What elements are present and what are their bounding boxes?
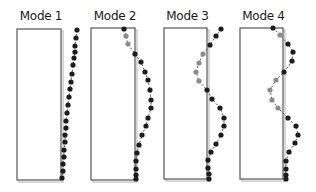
- mode-point: [63, 125, 68, 130]
- mode-point: [132, 51, 137, 56]
- mode-point-gray: [277, 32, 282, 37]
- mode-shapes-canvas: [0, 0, 316, 192]
- mode-point-gray: [267, 87, 272, 92]
- mode-point-gray: [196, 78, 201, 83]
- mode-point-gray: [200, 51, 205, 56]
- structure-outline: [17, 29, 61, 180]
- mode-point: [142, 69, 147, 74]
- mode-point: [71, 55, 76, 60]
- mode-point-gray: [193, 69, 198, 74]
- mode-point: [61, 154, 66, 159]
- mode-point: [60, 161, 65, 166]
- mode-point: [285, 115, 290, 120]
- mode-point: [133, 166, 138, 171]
- mode-point: [143, 123, 148, 128]
- mode-point: [60, 168, 65, 173]
- mode-point: [295, 132, 300, 137]
- mode-shapes-figure: Mode 1 Mode 2 Mode 3 Mode 4: [0, 0, 316, 192]
- mode-point-gray: [196, 60, 201, 65]
- mode-4-title: Mode 4: [242, 9, 284, 23]
- mode-point: [221, 115, 226, 120]
- mode-point: [73, 35, 78, 40]
- mode-point: [204, 87, 209, 92]
- mode-point: [213, 33, 218, 38]
- mode-point: [67, 86, 72, 91]
- mode-point: [147, 87, 152, 92]
- mode-point: [133, 176, 138, 181]
- mode-point: [136, 142, 141, 147]
- mode-point: [69, 71, 74, 76]
- mode-point: [65, 102, 70, 107]
- mode-point-gray: [275, 105, 280, 110]
- mode-point: [62, 139, 67, 144]
- mode-2-title: Mode 2: [94, 9, 136, 23]
- mode-point: [72, 49, 77, 54]
- mode-1-title: Mode 1: [20, 9, 62, 23]
- mode-point: [205, 157, 210, 162]
- mode-3-title: Mode 3: [166, 9, 208, 23]
- mode-point: [145, 77, 150, 82]
- mode-point: [213, 141, 218, 146]
- mode-point: [145, 115, 150, 120]
- mode-point: [292, 140, 297, 145]
- mode-point: [221, 123, 226, 128]
- mode-point: [290, 49, 295, 54]
- mode-point: [286, 149, 291, 154]
- mode-point: [293, 123, 298, 128]
- mode-point: [61, 147, 66, 152]
- mode-point: [148, 105, 153, 110]
- mode-point: [283, 166, 288, 171]
- mode-point: [68, 79, 73, 84]
- mode-point: [139, 132, 144, 137]
- mode-point: [285, 41, 290, 46]
- mode-point-gray: [125, 41, 130, 46]
- mode-point: [63, 118, 68, 123]
- mode-point: [66, 94, 71, 99]
- structure-outline: [240, 28, 283, 179]
- mode-point: [283, 158, 288, 163]
- mode-point: [206, 171, 211, 176]
- mode-point: [74, 27, 79, 32]
- structure-outline: [91, 28, 135, 180]
- mode-point: [217, 105, 222, 110]
- mode-point: [270, 25, 275, 30]
- mode-point: [59, 175, 64, 180]
- mode-point: [62, 132, 67, 137]
- mode-point: [205, 165, 210, 170]
- mode-point: [138, 59, 143, 64]
- mode-point: [281, 69, 286, 74]
- mode-point: [64, 110, 69, 115]
- mode-point-gray: [269, 97, 274, 102]
- mode-point: [134, 150, 139, 155]
- mode-point: [207, 42, 212, 47]
- mode-point: [72, 43, 77, 48]
- mode-point: [208, 149, 213, 154]
- mode-point: [148, 97, 153, 102]
- mode-point: [121, 26, 126, 31]
- mode-point: [218, 132, 223, 137]
- mode-point: [289, 58, 294, 63]
- mode-point: [70, 62, 75, 67]
- mode-point: [218, 26, 223, 31]
- mode-point: [283, 176, 288, 181]
- structure-outline: [164, 28, 207, 179]
- mode-point-gray: [273, 77, 278, 82]
- mode-point: [133, 158, 138, 163]
- mode-point-gray: [123, 33, 128, 38]
- mode-point: [206, 176, 211, 181]
- mode-point: [209, 96, 214, 101]
